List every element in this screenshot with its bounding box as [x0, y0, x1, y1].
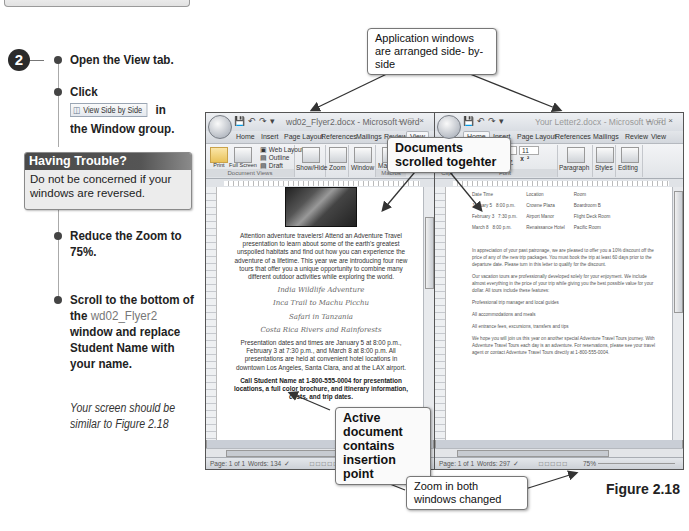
- step-bullet: [54, 56, 62, 64]
- tab-view[interactable]: View: [651, 133, 666, 140]
- font-size-select[interactable]: 11: [519, 146, 539, 155]
- zoom-slider[interactable]: [598, 463, 675, 464]
- tab-insert[interactable]: Insert: [261, 133, 279, 140]
- window-controls[interactable]: –□×: [398, 116, 430, 125]
- side-by-side-icon: ◫: [73, 105, 81, 115]
- table-header: Location: [526, 191, 574, 202]
- horizontal-scrollbar[interactable]: [435, 448, 683, 457]
- word-count[interactable]: Words: 134: [248, 460, 281, 467]
- having-trouble-title: Having Trouble?: [25, 153, 191, 170]
- proofing-icon[interactable]: ✓: [284, 460, 290, 468]
- styles-button[interactable]: Styles: [595, 164, 613, 171]
- office-button[interactable]: [208, 115, 232, 139]
- status-bar: Page: 1 of 1 Words: 297 ✓ □□□□□ 75%: [435, 457, 683, 469]
- zoom-icon[interactable]: [329, 147, 347, 163]
- table-header: Room: [574, 191, 620, 202]
- window-group: Window: [349, 145, 376, 177]
- vertical-scrollbar[interactable]: [672, 187, 683, 440]
- letter-paragraph: All accommodations and meals: [472, 311, 658, 318]
- zoom-group: Zoom: [326, 145, 349, 177]
- tab-references[interactable]: References: [321, 133, 357, 140]
- proofing-icon[interactable]: ✓: [513, 460, 519, 468]
- quick-access-toolbar[interactable]: 💾↶↷▾: [234, 116, 278, 126]
- arrow-zoom-right: [522, 473, 576, 490]
- letter-content: Date Time Location Room January 5 8:00 p…: [472, 191, 658, 361]
- draft-label: Draft: [269, 162, 283, 169]
- draft-icon: ▤: [260, 162, 269, 169]
- view-buttons[interactable]: □□□□□: [539, 460, 569, 467]
- document-page-flyer[interactable]: Attention adventure travelers! Attend an…: [217, 187, 423, 440]
- title-bar[interactable]: 💾↶↷▾ wd02_Flyer2.docx - Microsoft Word –…: [206, 113, 434, 131]
- window-button[interactable]: Window: [351, 164, 374, 171]
- group-document-views: Print Layout Full Screen Reading ▣ Web L…: [206, 145, 295, 177]
- title-bar[interactable]: 💾↶↷▾ Your Letter2.docx - Microsoft Word …: [435, 113, 683, 131]
- callout-arranged-side-by-side: Application windows are arranged side- b…: [367, 28, 497, 75]
- letter-paragraph: In appreciation of your past patronage, …: [472, 247, 658, 268]
- vertical-scroll-thumb[interactable]: [425, 217, 434, 289]
- tab-mailings[interactable]: Mailings: [593, 133, 619, 140]
- table-header-row: Date Time Location Room: [472, 191, 619, 202]
- table-row: March 8 8:00 p.m. Renaissance Hotel Paci…: [472, 224, 619, 235]
- zoom-level[interactable]: 75%: [583, 460, 596, 467]
- editing-button[interactable]: Editing: [618, 164, 638, 171]
- step-click-label: Click: [70, 84, 199, 100]
- having-trouble-body: Do not be concerned if your windows are …: [25, 170, 191, 202]
- office-button[interactable]: [437, 115, 461, 139]
- figure-label: Figure 2.18: [606, 481, 680, 497]
- vertical-ruler: [206, 187, 217, 440]
- tab-page-layout[interactable]: Page Layout: [517, 133, 556, 140]
- tab-page-layout[interactable]: Page Layout: [284, 133, 323, 140]
- window-controls[interactable]: –□×: [647, 116, 679, 125]
- letter-paragraph: All entrance fees, excursions, transfers…: [472, 323, 658, 330]
- vertical-scrollbar[interactable]: [423, 187, 434, 440]
- step-click-line: ◫ View Side by Side in: [70, 102, 199, 118]
- schedule-table: Date Time Location Room January 5 8:00 p…: [472, 191, 619, 235]
- step-click-in: in: [156, 102, 166, 117]
- tab-review[interactable]: Review: [625, 133, 648, 140]
- outline-button[interactable]: ▤ Outline: [260, 154, 289, 162]
- show-hide-icon[interactable]: [302, 147, 320, 163]
- editing-group: Editing: [616, 145, 643, 177]
- paragraph-icon[interactable]: [567, 147, 585, 163]
- horizontal-scroll-thumb[interactable]: [457, 450, 609, 457]
- callout-documents-scrolled: Documents scrolled togehter: [387, 137, 511, 173]
- quick-access-toolbar[interactable]: 💾↶↷▾: [463, 116, 507, 126]
- window-icon[interactable]: [354, 147, 372, 163]
- vertical-ruler: [435, 187, 446, 440]
- callout-zoom-changed: Zoom in both windows changed: [406, 476, 528, 510]
- paragraph-button[interactable]: Paragraph: [559, 164, 589, 171]
- styles-group: Styles: [593, 145, 616, 177]
- ruler-scale: [224, 181, 420, 186]
- document-page-letter[interactable]: Date Time Location Room January 5 8:00 p…: [446, 187, 672, 440]
- step-reduce-zoom: Reduce the Zoom to 75%.: [70, 228, 199, 260]
- show-hide-button[interactable]: Show/Hide: [296, 164, 327, 171]
- steps-timeline-lower: [58, 208, 59, 300]
- print-layout-icon[interactable]: [210, 147, 228, 163]
- styles-icon[interactable]: [596, 147, 614, 163]
- page-count[interactable]: Page: 1 of 1: [210, 460, 245, 467]
- letter-paragraph: Professional trip manager and local guid…: [472, 299, 658, 306]
- table-row: February 3 7:30 p.m. Airport Manor Fligh…: [472, 213, 619, 224]
- web-layout-icon: ▣: [260, 146, 269, 153]
- word-count[interactable]: Words: 297: [477, 460, 510, 467]
- flyer-call-to-action[interactable]: Call Student Name at 1-800-555-0004 for …: [231, 377, 411, 402]
- show-hide-group: Show/Hide: [295, 145, 326, 177]
- table-header: Date Time: [472, 191, 526, 202]
- flyer-photo: [285, 187, 357, 227]
- callout-active-document: Active document contains insertion point: [335, 407, 431, 485]
- vertical-scroll-thumb[interactable]: [674, 191, 683, 313]
- view-side-by-side-label: View Side by Side: [83, 105, 142, 115]
- zoom-button[interactable]: Zoom: [329, 164, 346, 171]
- flyer-content: Attention adventure travelers! Attend an…: [231, 187, 411, 440]
- tab-mailings[interactable]: Mailings: [356, 133, 382, 140]
- step-connector: [30, 60, 44, 61]
- page-count[interactable]: Page: 1 of 1: [439, 460, 474, 467]
- tab-home[interactable]: Home: [236, 133, 255, 140]
- tour-item: Safari in Tanzania: [231, 313, 411, 321]
- letter-paragraph: We hope you will join us this year on an…: [472, 335, 658, 356]
- step-replace-text: window and replace Student Name with you…: [70, 324, 180, 371]
- tab-references[interactable]: References: [555, 133, 591, 140]
- editing-icon[interactable]: [621, 147, 639, 163]
- full-screen-reading-icon[interactable]: [234, 147, 252, 163]
- step-bullet: [54, 88, 62, 96]
